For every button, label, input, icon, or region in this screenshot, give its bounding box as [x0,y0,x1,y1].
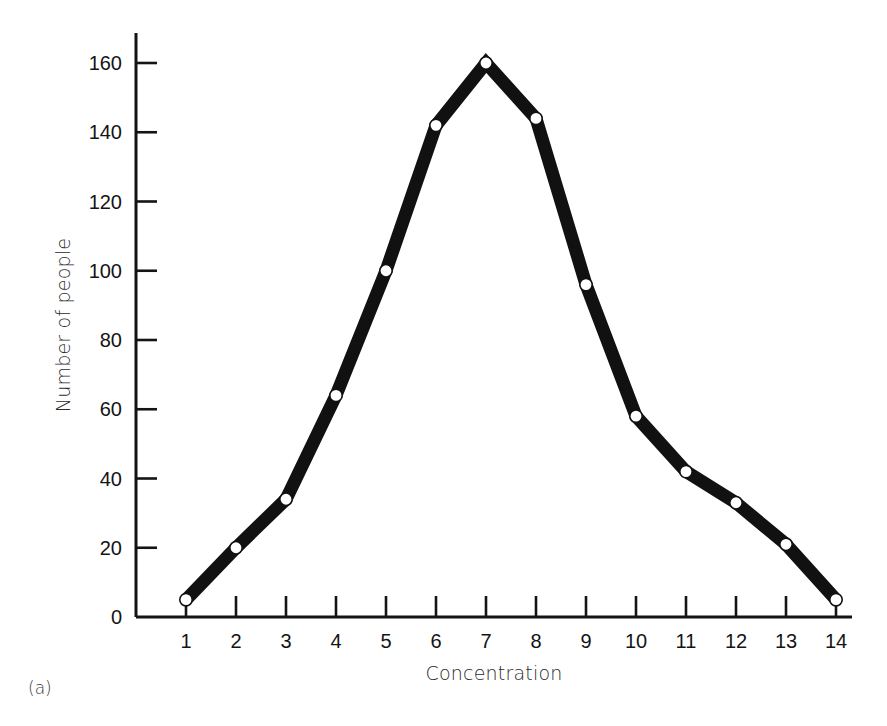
y-tick-label: 60 [100,398,122,420]
figure-container: 020406080100120140160 123456789101112131… [0,0,887,726]
data-series-line [186,63,836,600]
x-tick-label: 12 [725,630,747,652]
data-point-marker [230,542,242,554]
figure-caption: (a) [28,678,52,698]
y-axis-title: Number of people [52,238,74,412]
x-tick-label: 13 [775,630,797,652]
data-point-marker [730,497,742,509]
y-tick-label: 40 [100,468,122,490]
data-point-marker [680,465,692,477]
y-tick-label: 160 [89,52,122,74]
x-tick-label: 5 [380,630,391,652]
data-point-marker [530,112,542,124]
y-tick-label: 120 [89,191,122,213]
x-tick-label: 6 [430,630,441,652]
y-tick-label: 80 [100,329,122,351]
x-tick-label: 3 [280,630,291,652]
y-axis-ticks [136,63,157,548]
x-tick-label: 11 [676,630,697,652]
data-point-marker [380,265,392,277]
data-point-marker [280,493,292,505]
data-point-marker [580,278,592,290]
x-tick-label: 9 [580,630,591,652]
y-tick-label: 100 [89,260,122,282]
data-point-marker [430,119,442,131]
y-tick-label: 0 [111,606,122,628]
x-tick-label: 14 [825,630,847,652]
x-tick-label: 2 [230,630,241,652]
line-chart: 020406080100120140160 123456789101112131… [0,0,887,726]
x-axis-title: Concentration [425,662,562,684]
data-point-marker [780,538,792,550]
data-point-marker [630,410,642,422]
x-tick-label: 4 [330,630,341,652]
x-axis-tick-labels: 1234567891011121314 [180,630,847,652]
y-tick-label: 20 [100,537,122,559]
y-tick-label: 140 [89,121,122,143]
x-tick-label: 1 [180,630,191,652]
x-tick-label: 7 [480,630,491,652]
y-axis-tick-labels: 020406080100120140160 [89,52,122,628]
x-tick-label: 10 [625,630,647,652]
x-axis-ticks [186,596,836,617]
data-point-marker [480,57,492,69]
data-point-marker [830,593,842,605]
data-point-marker [330,389,342,401]
x-tick-label: 8 [530,630,541,652]
data-point-marker [180,593,192,605]
data-point-markers [180,57,842,606]
